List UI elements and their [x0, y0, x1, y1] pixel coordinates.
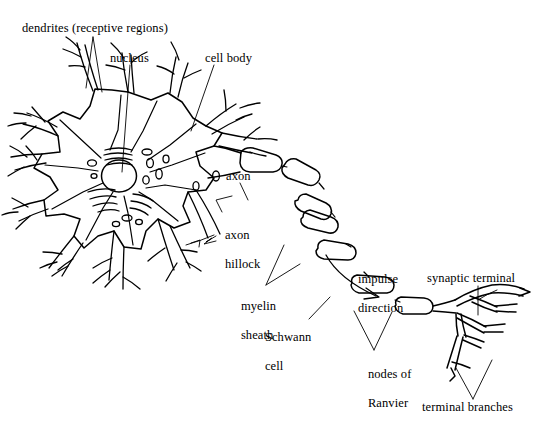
label-myelin-line1: myelin — [241, 299, 276, 313]
label-axon-hillock: axon hillock — [212, 213, 260, 286]
label-schwann-cell: Schwann cell — [252, 315, 311, 388]
label-synaptic-terminal: synaptic terminal — [427, 271, 515, 285]
label-nucleus: nucleus — [110, 51, 149, 65]
label-impulse-direction: impulse direction — [345, 257, 403, 330]
neuron-diagram-figure: dendrites (receptive regions) nucleus ce… — [0, 0, 542, 437]
label-schwann-line2: cell — [265, 359, 283, 373]
label-cell-body: cell body — [205, 51, 252, 65]
label-terminal-branches: terminal branches — [422, 400, 513, 414]
label-impulse-line2: direction — [358, 301, 403, 315]
soma-internal-processes — [45, 95, 205, 245]
label-nodes-line2: Ranvier — [368, 396, 408, 410]
label-nodes-line1: nodes of — [368, 367, 412, 381]
cell-body-soma — [34, 89, 222, 249]
label-nodes-of-ranvier: nodes of Ranvier — [355, 352, 411, 425]
label-schwann-line1: Schwann — [265, 330, 312, 344]
label-axon-hillock-line1: axon — [225, 228, 250, 242]
label-impulse-line1: impulse — [358, 272, 398, 286]
label-axon: axon — [226, 169, 251, 183]
terminal-branches-shape — [433, 285, 530, 382]
label-axon-hillock-line2: hillock — [225, 257, 260, 271]
label-dendrites: dendrites (receptive regions) — [22, 21, 168, 35]
